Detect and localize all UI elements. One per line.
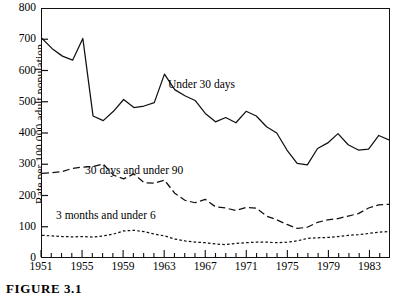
y-tick-label-300: 300 [2, 158, 36, 170]
x-tick-label-1959: 1959 [103, 260, 143, 273]
x-tick-label-1963: 1963 [144, 260, 184, 273]
x-tick-label-1955: 1955 [62, 260, 102, 273]
y-axis-tick-labels: 0100200300400500600700800 [0, 0, 36, 292]
y-tick-label-200: 200 [2, 190, 36, 202]
y-tick-label-600: 600 [2, 65, 36, 77]
line-3-months-and-under-6 [42, 230, 389, 244]
x-tick-label-1975: 1975 [267, 260, 307, 273]
x-tick-label-1983: 1983 [349, 260, 389, 273]
line-under-30-days [42, 38, 389, 164]
x-tick-label-1951: 1951 [21, 260, 61, 273]
y-tick-label-800: 800 [2, 2, 36, 14]
y-tick-label-700: 700 [2, 33, 36, 45]
x-tick-label-1967: 1967 [185, 260, 225, 273]
figure-caption: FIGURE 3.1 [6, 281, 82, 297]
series-label-under-30-days: Under 30 days [168, 78, 235, 90]
y-tick-label-100: 100 [2, 221, 36, 233]
y-tick-label-500: 500 [2, 96, 36, 108]
y-tick-label-400: 400 [2, 127, 36, 139]
x-tick-label-1979: 1979 [308, 260, 348, 273]
x-tick-label-1971: 1971 [226, 260, 266, 273]
series-label-30-days-and-under-90: 30 days and under 90 [85, 164, 183, 176]
x-axis-tick-labels: 195119551959196319671971197519791983 [0, 260, 403, 278]
series-label-3-months-and-under-6: 3 months and under 6 [56, 209, 156, 221]
